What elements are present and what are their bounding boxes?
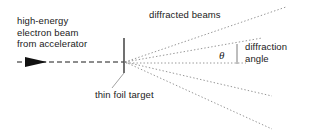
electron-diffraction-diagram: high-energyelectron beamfrom accelerator… <box>0 0 309 134</box>
label-source-beam-line2: electron beam <box>17 27 79 38</box>
label-source-beam-line1: high-energy <box>17 15 68 26</box>
label-diffraction-angle-line1: diffraction <box>245 41 287 52</box>
label-source-beam-line3: from accelerator <box>17 38 87 49</box>
label-diffraction-angle: diffractionangle <box>245 41 287 64</box>
label-source-beam: high-energyelectron beamfrom accelerator <box>17 15 87 50</box>
beam-direction-arrowhead <box>25 57 47 67</box>
label-diffracted-beams: diffracted beams <box>149 9 221 21</box>
thin-foil-target-leader-line <box>112 73 124 88</box>
label-theta-symbol: θ <box>219 50 225 62</box>
label-diffraction-angle-line2: angle <box>245 53 269 64</box>
diffracted-ray-up-near <box>125 38 262 62</box>
label-thin-foil-target: thin foil target <box>95 89 154 101</box>
